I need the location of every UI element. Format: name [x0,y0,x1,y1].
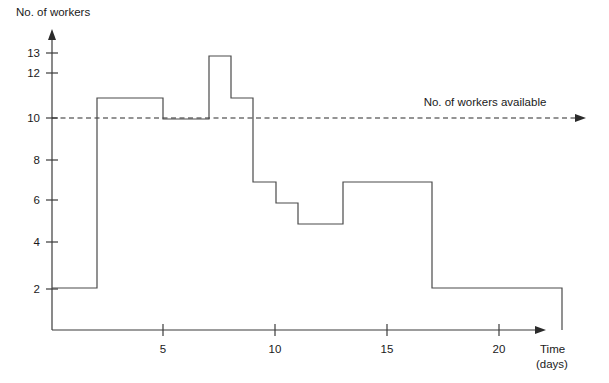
chart-canvas: No. of workers 13 12 10 8 6 [0,0,609,383]
y-tick-label-2: 2 [34,283,40,295]
workers-available-reference-line: No. of workers available [52,96,586,122]
x-axis-title-unit: (days) [536,358,568,370]
x-axis-title: Time [540,343,565,355]
y-tick-label-8: 8 [34,154,40,166]
x-axis-title-group: Time (days) [536,343,568,370]
y-tick-label-13: 13 [27,47,40,59]
resource-histogram-chart: No. of workers 13 12 10 8 6 [0,0,609,383]
y-tick-label-10: 10 [27,112,40,124]
y-tick-label-6: 6 [34,194,40,206]
y-tick-label-12: 12 [27,67,40,79]
y-tick-label-4: 4 [34,236,41,248]
x-axis-arrow-icon [535,326,546,334]
workers-available-arrow-icon [575,114,586,122]
x-tick-label-15: 15 [381,343,394,355]
x-tick-label-20: 20 [493,343,506,355]
x-axis-tick-labels: 5 10 15 20 [160,343,506,355]
y-axis-tick-labels: 13 12 10 8 6 4 2 [27,47,40,295]
y-axis [48,29,56,330]
y-axis-arrow-icon [48,29,56,40]
workers-available-label: No. of workers available [424,96,547,108]
y-axis-title: No. of workers [16,6,90,18]
x-tick-label-10: 10 [269,343,282,355]
x-axis [52,326,546,334]
x-tick-label-5: 5 [160,343,166,355]
